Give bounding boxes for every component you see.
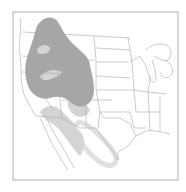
range-map-canvas: [0, 0, 186, 192]
range-map: [0, 0, 186, 192]
